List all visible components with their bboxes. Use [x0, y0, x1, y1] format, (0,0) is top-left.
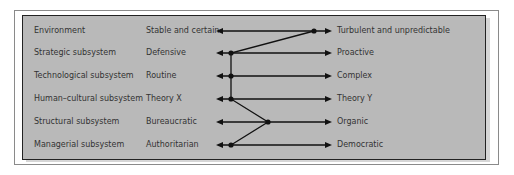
profile-dots: [228, 28, 316, 147]
profile-line: [231, 31, 314, 145]
continuum-arrows: [0, 0, 514, 175]
arrow-line: [220, 31, 328, 145]
arrowheads: [216, 28, 332, 148]
